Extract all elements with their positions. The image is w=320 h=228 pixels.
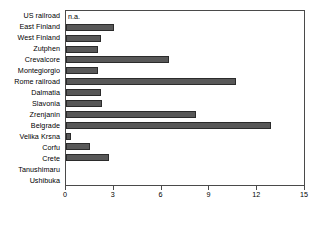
bar — [66, 122, 271, 129]
bar — [66, 154, 109, 161]
bar-row — [66, 142, 304, 153]
bar — [66, 111, 196, 118]
bar-row — [66, 152, 304, 163]
bar — [66, 89, 101, 96]
bar-row — [66, 76, 304, 87]
category-label: Crete — [0, 153, 63, 164]
category-axis-labels: US railroadEast FinlandWest FinlandZutph… — [0, 10, 63, 186]
bar-row — [66, 22, 304, 33]
x-axis: 03691215 — [65, 186, 305, 210]
bar — [66, 100, 102, 107]
bar-row — [66, 55, 304, 66]
bar — [66, 143, 90, 150]
category-label: Crevalcore — [0, 54, 63, 65]
category-label: Corfu — [0, 142, 63, 153]
not-available-annotation: n.a. — [66, 13, 80, 20]
bar — [66, 24, 114, 31]
bar-row — [66, 98, 304, 109]
bars-layer: n.a. — [66, 11, 304, 185]
bar-row — [66, 120, 304, 131]
category-label: Velika Krsna — [0, 131, 63, 142]
category-label: Montegiorgio — [0, 65, 63, 76]
x-axis-tick-label: 15 — [300, 191, 308, 198]
x-axis-tick-label: 6 — [159, 191, 163, 198]
plot-area: n.a. — [65, 10, 305, 186]
bar-row — [66, 87, 304, 98]
category-label: Slavonia — [0, 98, 63, 109]
category-label: East Finland — [0, 21, 63, 32]
bar-chart: US railroadEast FinlandWest FinlandZutph… — [0, 0, 320, 228]
category-label: Belgrade — [0, 120, 63, 131]
bar-row — [66, 44, 304, 55]
bar — [66, 46, 98, 53]
bar-row — [66, 174, 304, 185]
bar — [66, 78, 236, 85]
bar-row: n.a. — [66, 11, 304, 22]
bar — [66, 35, 101, 42]
x-axis-tick-label: 3 — [111, 191, 115, 198]
x-axis-tick-label: 0 — [63, 191, 67, 198]
x-axis-tick-label: 12 — [252, 191, 260, 198]
bar-row — [66, 163, 304, 174]
category-label: US railroad — [0, 10, 63, 21]
bar — [66, 67, 98, 74]
bar-row — [66, 65, 304, 76]
category-label: Dalmatia — [0, 87, 63, 98]
category-label: Rome railroad — [0, 76, 63, 87]
bar-row — [66, 109, 304, 120]
x-axis-tick-label: 9 — [206, 191, 210, 198]
category-label: Zutphen — [0, 43, 63, 54]
category-label: Zrenjanin — [0, 109, 63, 120]
bar — [66, 133, 71, 140]
bar-row — [66, 131, 304, 142]
category-label: Tanushimaru — [0, 164, 63, 175]
bar — [66, 56, 169, 63]
category-label: Ushibuka — [0, 175, 63, 186]
category-label: West Finland — [0, 32, 63, 43]
bar-row — [66, 33, 304, 44]
